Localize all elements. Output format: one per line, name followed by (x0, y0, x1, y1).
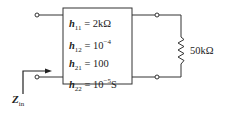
param-h12: h12 = 10−4 (69, 36, 117, 57)
param-h11: h11 = 2kΩ (69, 17, 117, 36)
input-top-terminal (35, 13, 39, 17)
h-parameters: h11 = 2kΩ h12 = 10−4 h21 = 100 h22 = 10−… (69, 17, 117, 96)
input-bottom-terminal (35, 75, 39, 79)
zin-label: Zin (12, 93, 24, 108)
output-bottom-terminal (155, 75, 159, 79)
load-resistor (178, 37, 184, 64)
output-top-terminal (155, 13, 159, 17)
load-resistor-label: 50kΩ (190, 45, 214, 56)
param-h22: h22 = 10−5S (69, 75, 117, 96)
zin-arrow (23, 71, 46, 94)
zin-arrowhead-icon (45, 69, 52, 74)
param-h21: h21 = 100 (69, 57, 117, 76)
